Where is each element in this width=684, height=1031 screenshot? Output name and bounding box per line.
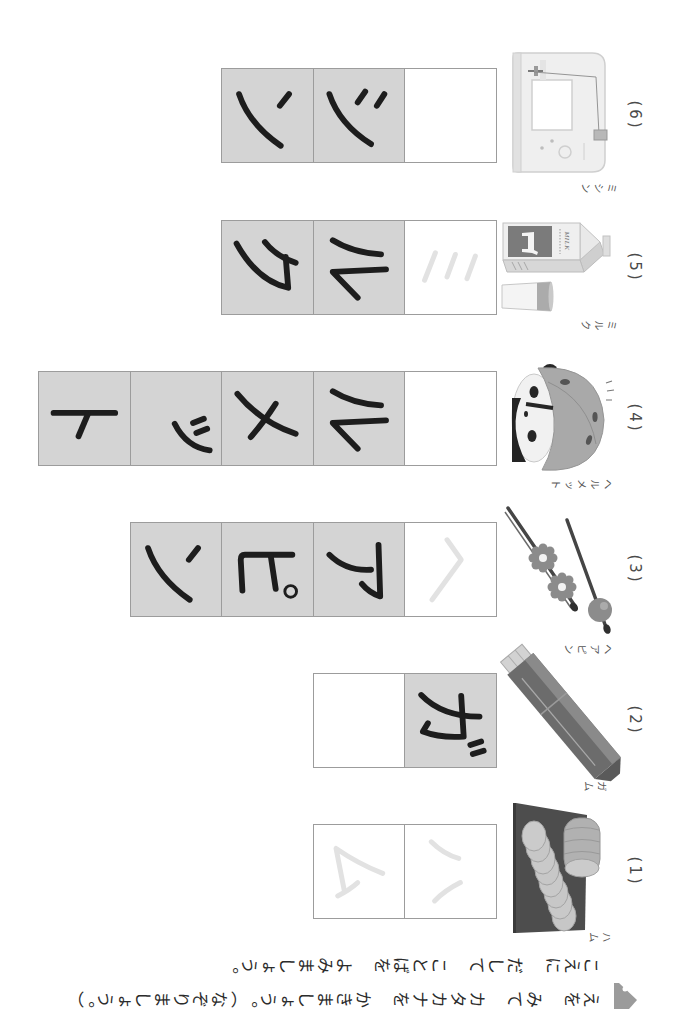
writing-cell[interactable] (405, 824, 498, 919)
glyph-stroke (336, 848, 383, 890)
glyph-stroke (285, 585, 297, 597)
katakana-glyph (409, 376, 492, 462)
item-number: (4) (626, 371, 644, 466)
item-number: (3) (626, 522, 644, 617)
katakana-glyph (43, 376, 126, 462)
gum-illustration (498, 642, 628, 788)
answer-cells (222, 220, 498, 315)
instruction-line-2: こえに だして ことばを よみましょう。 (220, 954, 600, 974)
glyph-stroke (467, 256, 475, 278)
glyph-stroke (432, 540, 461, 600)
pencil-icon (610, 980, 640, 1012)
panda-helmet-illustration (512, 364, 614, 470)
instruction-line-1: えを みて カタカナを かきましょう。（なぞりましょう。） (65, 988, 600, 1008)
katakana-glyph (318, 527, 401, 613)
answer-cells (313, 824, 497, 919)
worksheet-page: えを みて カタカナを かきましょう。（なぞりましょう。） こえに だして こと… (0, 0, 684, 1031)
item-reading: ヘルメット (548, 477, 613, 489)
ham-illustration (513, 803, 600, 933)
katakana-glyph (226, 527, 309, 613)
writing-cell[interactable] (313, 824, 406, 919)
model-cell (313, 522, 406, 617)
milk-glass-illustration (502, 282, 554, 311)
katakana-glyph (135, 376, 218, 462)
model-cell (39, 371, 132, 466)
katakana-glyph (318, 829, 401, 915)
writing-cell[interactable] (405, 68, 498, 163)
item-reading: ガム (581, 779, 607, 791)
model-cell (313, 68, 406, 163)
model-cell (222, 68, 315, 163)
glyph-stroke (432, 842, 459, 859)
item-reading: ミルク (578, 318, 617, 330)
katakana-glyph (409, 678, 492, 764)
writing-cell[interactable] (313, 673, 406, 768)
model-cell (222, 220, 315, 315)
item-number: (6) (626, 68, 644, 163)
glyph-stroke (329, 94, 371, 144)
katakana-glyph (318, 73, 401, 159)
writing-cell[interactable] (405, 522, 498, 617)
glyph-stroke (265, 242, 296, 263)
glyph-stroke (377, 94, 384, 106)
glyph-stroke (148, 548, 190, 600)
model-cell (222, 371, 315, 466)
glyph-stroke (333, 240, 381, 254)
glyph-stroke (280, 94, 289, 106)
milk-carton-illustration: MILK (503, 223, 610, 272)
katakana-glyph (318, 376, 401, 462)
katakana-glyph (135, 527, 218, 613)
glyph-stroke (333, 420, 386, 448)
glyph-stroke (473, 750, 484, 753)
glyph-stroke (471, 741, 482, 744)
glyph-stroke (422, 695, 480, 717)
item-number: (1) (626, 824, 644, 919)
glyph-stroke (425, 253, 436, 280)
answer-cells (222, 68, 498, 163)
glyph-stroke (333, 269, 386, 297)
model-cell (313, 371, 406, 466)
katakana-glyph (409, 225, 492, 311)
katakana-glyph (409, 829, 492, 915)
glyph-stroke (271, 555, 276, 588)
glyph-stroke (237, 243, 289, 287)
glyph-stroke (435, 882, 461, 900)
answer-cells (39, 371, 498, 466)
answer-cells (313, 673, 497, 768)
model-cell (313, 220, 406, 315)
glyph-stroke (333, 391, 381, 405)
katakana-glyph (409, 73, 492, 159)
katakana-glyph (226, 73, 309, 159)
sewing-machine-illustration (513, 53, 607, 172)
model-cell (130, 522, 223, 617)
glyph-stroke (189, 548, 198, 560)
item-reading: ハム (586, 930, 612, 942)
item-number: (5) (626, 220, 644, 315)
model-cell (405, 673, 498, 768)
glyph-stroke (79, 414, 88, 436)
katakana-glyph (318, 225, 401, 311)
glyph-stroke (196, 428, 207, 432)
writing-cell[interactable] (405, 220, 498, 315)
katakana-glyph (409, 527, 492, 613)
item-reading: ミシン (578, 181, 617, 193)
item-number: (2) (626, 673, 644, 768)
glyph-stroke (329, 555, 371, 570)
hairpins-illustration (505, 508, 612, 635)
model-cell (130, 371, 223, 466)
model-cell (222, 522, 315, 617)
glyph-stroke (358, 91, 365, 102)
katakana-glyph (318, 678, 401, 764)
answer-cells (130, 522, 497, 617)
item-reading: ヘアピン (561, 642, 613, 654)
milk-carton-label: MILK (563, 230, 571, 250)
glyph-stroke (193, 418, 204, 422)
glyph-stroke (239, 94, 281, 146)
katakana-glyph (226, 225, 309, 311)
writing-cell[interactable] (405, 371, 498, 466)
glyph-stroke (447, 254, 455, 276)
glyph-stroke (241, 555, 293, 591)
katakana-glyph (226, 376, 309, 462)
